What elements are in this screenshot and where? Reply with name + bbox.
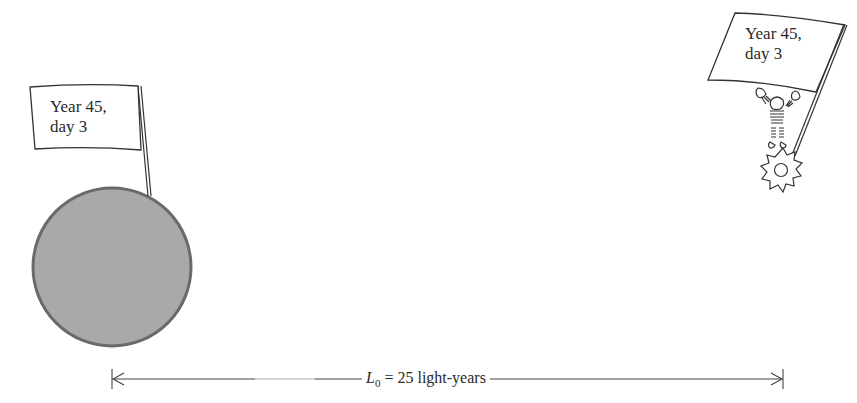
distance-equals: = [384,369,393,386]
star-flag-label: Year 45, day 3 [745,24,802,64]
earth-flag-line1: Year 45, [50,97,107,117]
planet-earth [33,188,191,346]
astronaut-icon [756,88,800,148]
earth-flag-line2: day 3 [50,117,107,137]
distance-value: 25 light-years [397,369,485,386]
star-flag-line1: Year 45, [745,24,802,44]
earth-flag-label: Year 45, day 3 [50,97,107,137]
diagram-canvas [0,0,857,403]
distance-subscript: 0 [375,377,381,389]
distance-symbol: L [366,369,375,386]
distance-label: L0 = 25 light-years [362,369,490,389]
star-flag-line2: day 3 [745,44,802,64]
